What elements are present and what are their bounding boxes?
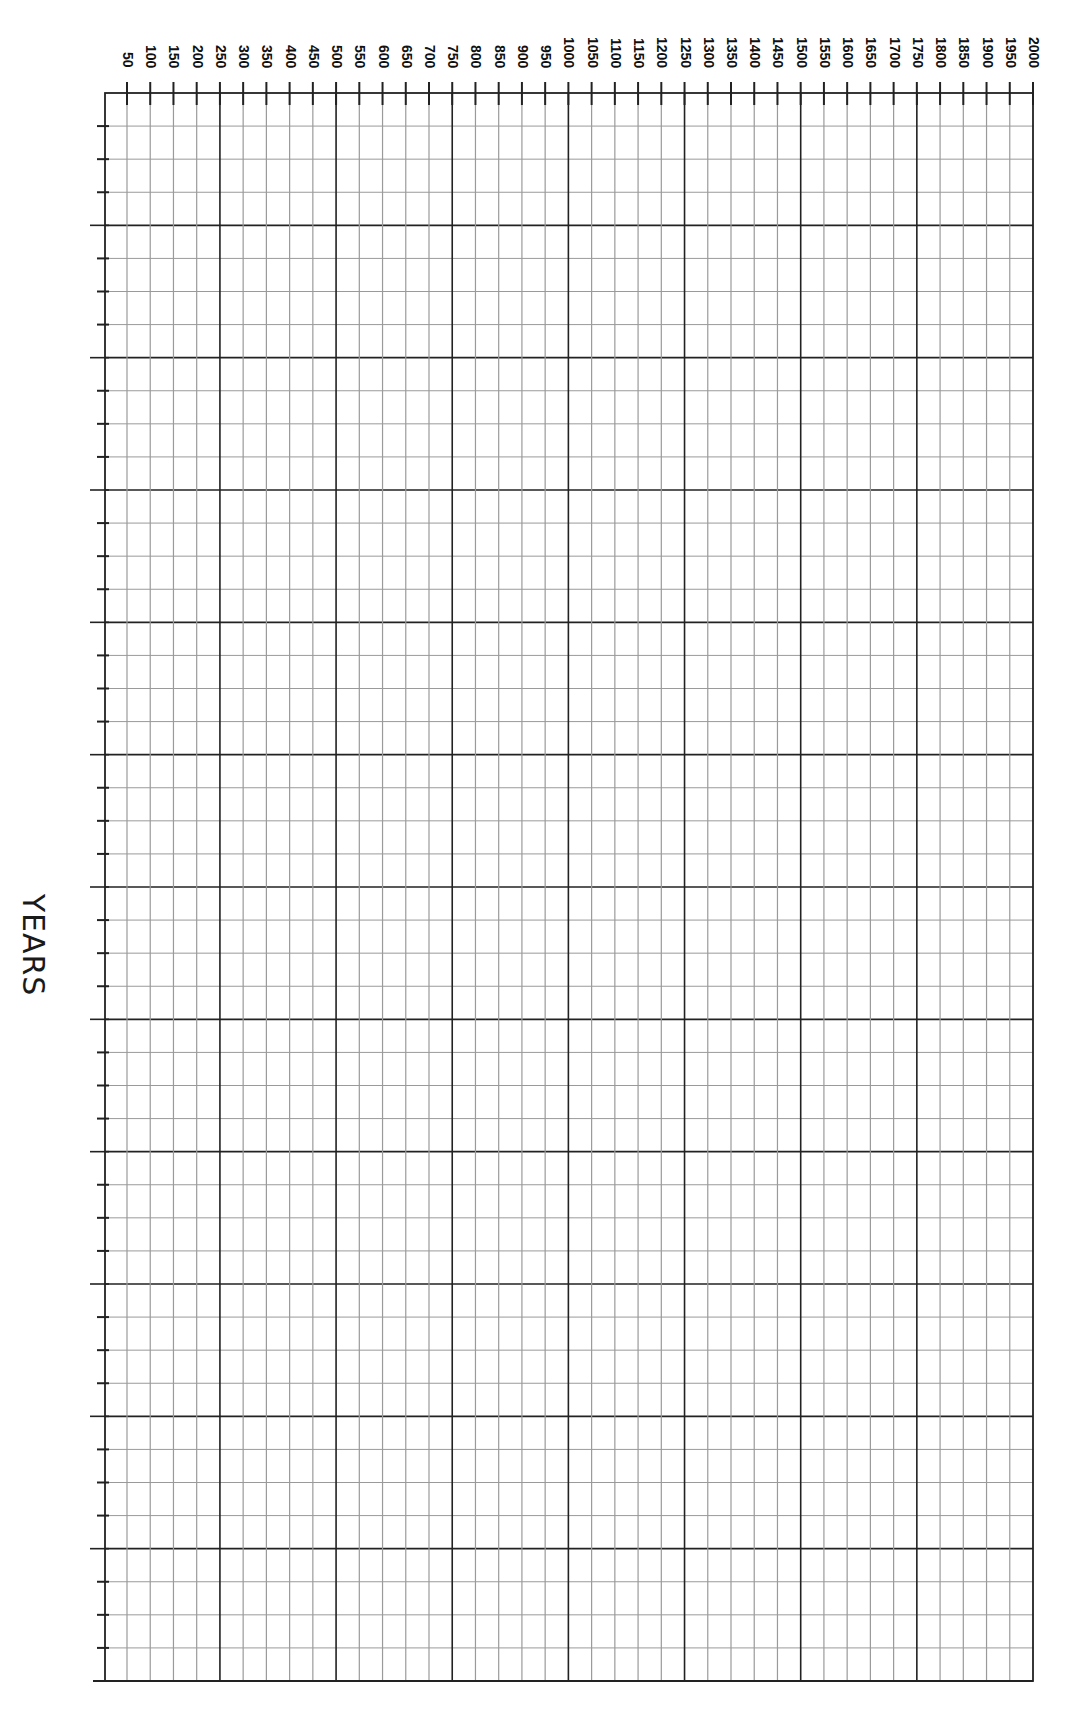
year-tick-label: 400: [284, 45, 298, 68]
year-tick-label: 1900: [981, 37, 995, 68]
year-tick-label: 1350: [725, 37, 739, 68]
year-tick-label: 1550: [818, 37, 832, 68]
year-tick-label: 250: [214, 45, 228, 68]
year-tick-label: 700: [423, 45, 437, 68]
year-tick-label: 300: [237, 45, 251, 68]
year-tick-label: 1800: [934, 37, 948, 68]
year-tick-label: 1500: [795, 37, 809, 68]
year-tick-label: 450: [307, 45, 321, 68]
timeline-graph-paper: 5010015020025030035040045050055060065070…: [0, 0, 1069, 1716]
year-tick-label: 600: [377, 45, 391, 68]
year-tick-label: 1200: [655, 37, 669, 68]
axis-label-years: YEARS: [16, 894, 51, 997]
year-tick-label: 1250: [679, 37, 693, 68]
year-tick-label: 850: [493, 45, 507, 68]
year-tick-label: 900: [516, 45, 530, 68]
year-tick-label: 950: [539, 45, 553, 68]
year-tick-label: 1150: [632, 38, 646, 68]
year-tick-label: 2000: [1027, 37, 1041, 68]
year-tick-label: 750: [446, 45, 460, 68]
year-tick-label: 1650: [864, 37, 878, 68]
year-tick-label: 100: [144, 45, 158, 68]
year-tick-label: 1450: [771, 37, 785, 68]
year-tick-label: 500: [330, 45, 344, 68]
year-tick-label: 1100: [609, 38, 623, 68]
year-tick-label: 1300: [702, 37, 716, 68]
year-tick-label: 1750: [911, 37, 925, 68]
year-tick-label: 1700: [888, 37, 902, 68]
grid: [0, 0, 1069, 1716]
year-tick-label: 1000: [562, 37, 576, 68]
year-tick-label: 1600: [841, 37, 855, 68]
year-tick-label: 1400: [748, 37, 762, 68]
year-tick-label: 1950: [1004, 37, 1018, 68]
year-tick-label: 200: [191, 45, 205, 68]
year-tick-label: 1850: [957, 37, 971, 68]
year-tick-label: 50: [121, 52, 135, 68]
year-tick-label: 150: [167, 45, 181, 68]
year-tick-label: 650: [400, 45, 414, 68]
year-tick-label: 550: [353, 45, 367, 68]
year-tick-label: 1050: [586, 37, 600, 68]
year-tick-label: 350: [260, 45, 274, 68]
year-tick-label: 800: [469, 45, 483, 68]
